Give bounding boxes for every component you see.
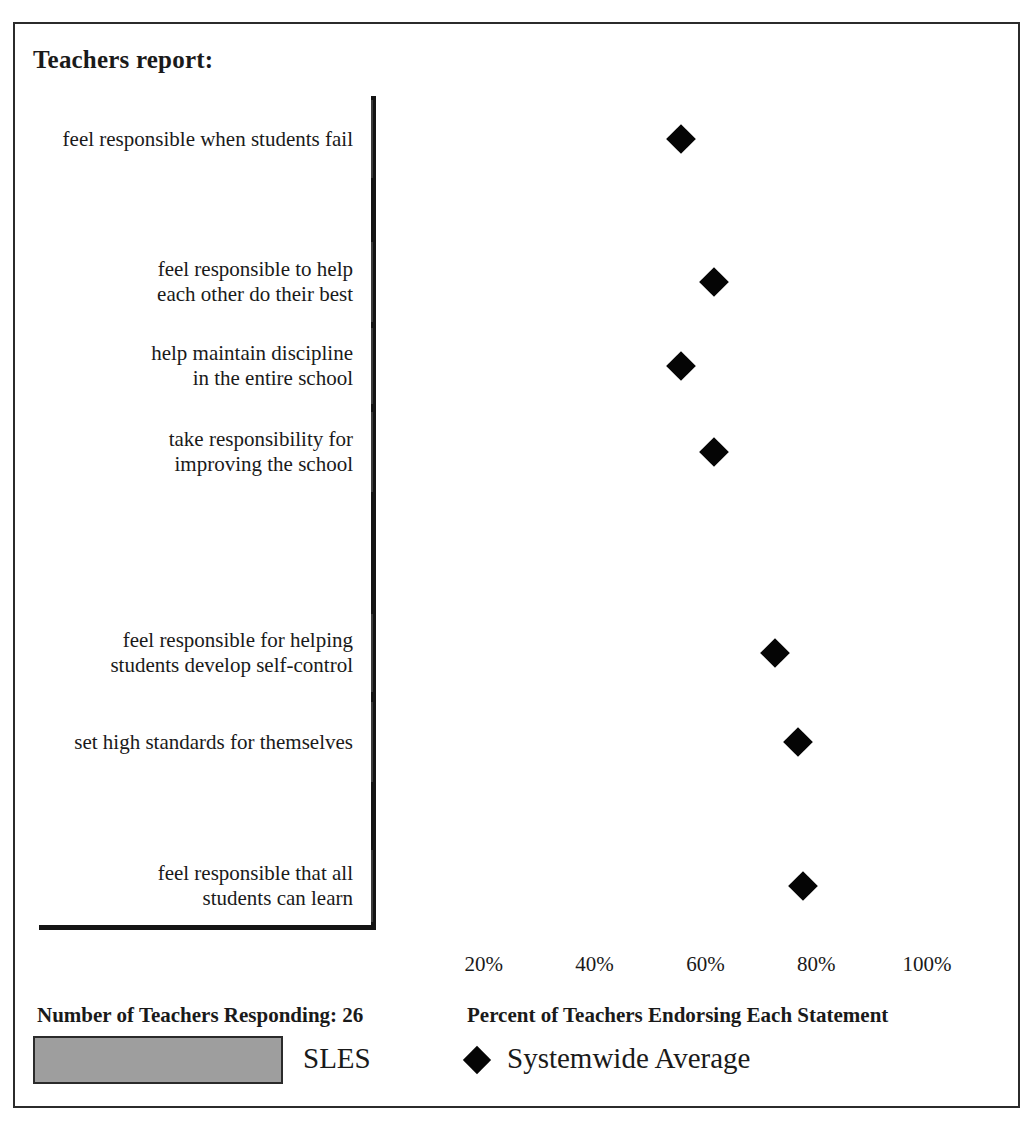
value-axis-line bbox=[371, 96, 376, 930]
category-label: set high standards for themselves bbox=[23, 730, 353, 755]
systemwide-average-marker bbox=[783, 727, 813, 757]
systemwide-average-marker bbox=[666, 124, 696, 154]
bar-row: set high standards for themselves bbox=[371, 702, 925, 782]
axis-baseline bbox=[39, 925, 376, 930]
x-axis-tick-label: 80% bbox=[797, 952, 836, 977]
category-label: feel responsible when students fail bbox=[23, 127, 353, 152]
x-axis-tick-label: 20% bbox=[465, 952, 504, 977]
category-label: help maintain discipline in the entire s… bbox=[23, 341, 353, 391]
bar-sles bbox=[371, 100, 373, 178]
systemwide-average-marker bbox=[700, 437, 730, 467]
x-axis-tick-label: 40% bbox=[575, 952, 614, 977]
bar-sles bbox=[371, 242, 373, 322]
systemwide-average-marker bbox=[761, 638, 791, 668]
category-label: feel responsible that all students can l… bbox=[23, 861, 353, 911]
bar-row: take responsibility for improving the sc… bbox=[371, 412, 831, 492]
bar-sles bbox=[371, 412, 373, 492]
systemwide-average-marker bbox=[700, 267, 730, 297]
bar-sles bbox=[371, 328, 373, 404]
bar-row: feel responsible that all students can l… bbox=[371, 850, 892, 922]
bar-sles bbox=[371, 614, 373, 692]
x-axis-tick-label: 60% bbox=[686, 952, 725, 977]
figure-frame: Teachers report: feel responsible when s… bbox=[13, 22, 1020, 1108]
category-label: feel responsible for helping students de… bbox=[23, 628, 353, 678]
category-label: take responsibility for improving the sc… bbox=[23, 427, 353, 477]
x-axis-tick-label: 100% bbox=[903, 952, 952, 977]
x-axis-caption: Percent of Teachers Endorsing Each State… bbox=[467, 1003, 888, 1028]
systemwide-average-marker bbox=[788, 871, 818, 901]
plot-area: feel responsible when students failfeel … bbox=[15, 24, 1022, 1110]
bar-row: feel responsible when students fail bbox=[371, 100, 703, 178]
category-label: feel responsible to help each other do t… bbox=[23, 257, 353, 307]
systemwide-average-marker bbox=[666, 351, 696, 381]
bar-sles bbox=[371, 702, 373, 782]
bar-sles bbox=[371, 850, 373, 922]
legend-bar-swatch bbox=[33, 1036, 283, 1084]
legend-marker-label: Systemwide Average bbox=[507, 1042, 750, 1075]
legend-series-label: SLES bbox=[303, 1042, 371, 1075]
bar-row: feel responsible to help each other do t… bbox=[371, 242, 742, 322]
bar-row: feel responsible for helping students de… bbox=[371, 614, 847, 692]
respondents-caption: Number of Teachers Responding: 26 bbox=[37, 1003, 363, 1028]
bar-row: help maintain discipline in the entire s… bbox=[371, 328, 670, 404]
